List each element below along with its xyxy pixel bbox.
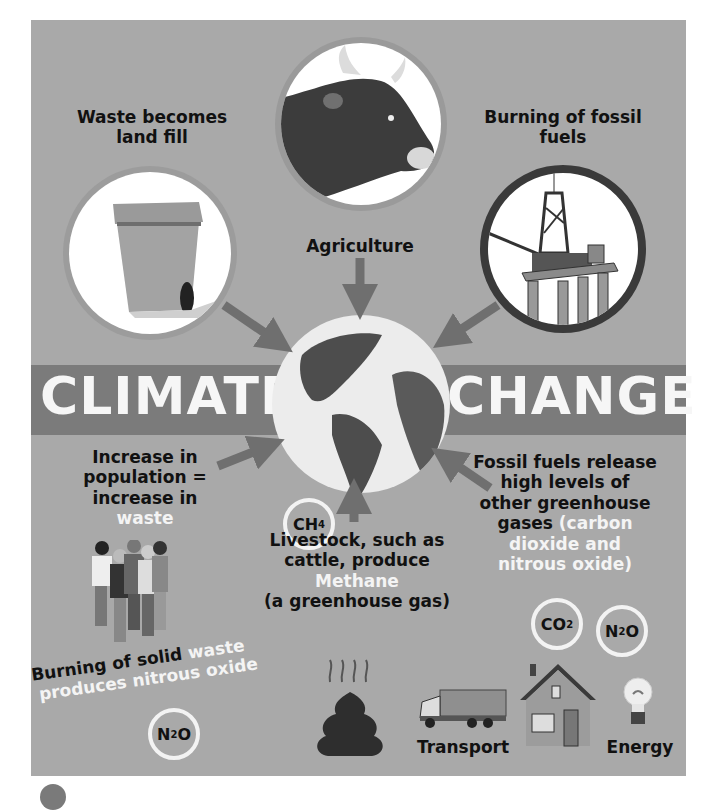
co2-badge: CO2	[531, 598, 583, 650]
arrow-population	[218, 446, 268, 466]
fossil-release-text: Fossil fuels release high levels of othe…	[470, 452, 660, 574]
lightbulb-icon	[620, 676, 656, 736]
n2o-badge-right: N2O	[596, 605, 648, 657]
livestock-text: Livestock, such as cattle, produce Metha…	[262, 530, 452, 612]
arrow-fossil	[448, 305, 498, 338]
manure-icon	[310, 658, 390, 758]
truck-icon	[418, 688, 508, 730]
transport-label: Transport	[413, 737, 513, 757]
n2o-badge-left: N2O	[148, 708, 200, 760]
energy-label: Energy	[600, 737, 680, 757]
arrow-waste	[224, 305, 278, 342]
population-text: Increase in population = increase in was…	[70, 447, 220, 529]
people-group-icon	[90, 540, 170, 650]
footer-decoration	[40, 784, 66, 810]
house-icon	[518, 662, 598, 752]
